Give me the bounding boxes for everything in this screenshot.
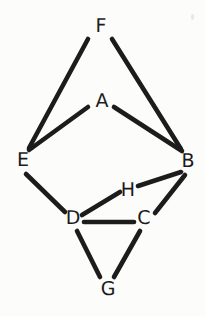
node-label-g: G — [101, 280, 116, 299]
node-label-a: A — [96, 92, 109, 111]
top-right-speck — [191, 14, 194, 20]
node-label-d: D — [66, 209, 81, 228]
edge-f-e — [29, 39, 88, 148]
graph-diagram: FAEBHDCG — [0, 0, 205, 316]
edge-d-g — [77, 231, 100, 277]
node-label-c: C — [137, 209, 150, 228]
edge-f-b — [112, 39, 181, 149]
edge-a-b — [114, 107, 182, 151]
node-label-e: E — [17, 151, 29, 170]
node-label-f: F — [96, 17, 107, 36]
node-label-b: B — [181, 152, 194, 171]
edge-d-h — [82, 192, 120, 215]
node-label-h: H — [121, 181, 135, 200]
graph-edges-canvas — [0, 0, 205, 316]
edge-e-d — [26, 174, 65, 212]
edge-group — [26, 39, 185, 277]
edge-c-g — [114, 231, 140, 277]
edge-b-h — [138, 172, 181, 186]
